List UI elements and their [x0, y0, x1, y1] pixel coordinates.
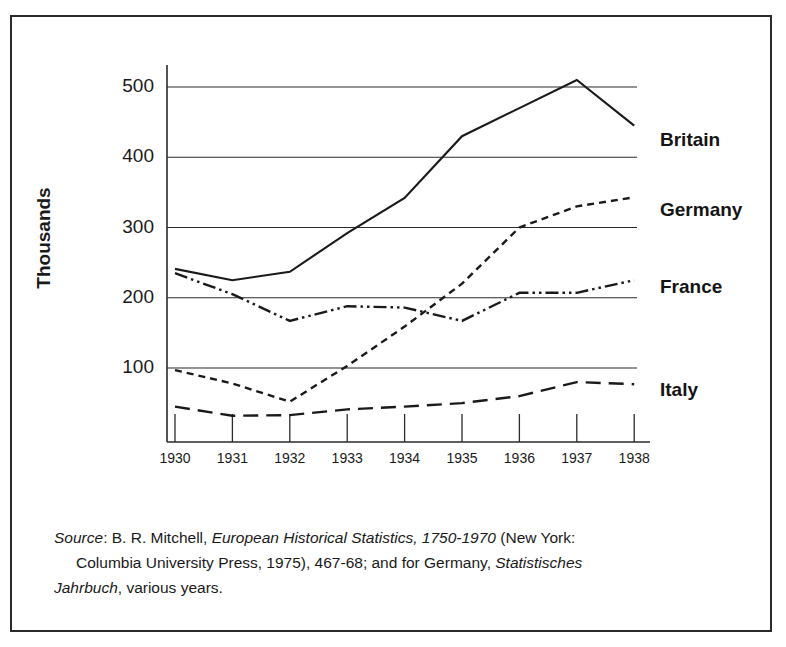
series-label-britain: Britain — [660, 129, 720, 151]
source-line2-text: Columbia University Press, 1975), 467-68… — [76, 554, 495, 571]
source-label: Source — [54, 529, 103, 546]
source-line1-tail: (New York: — [496, 529, 575, 546]
source-line3-rest: , various years. — [118, 579, 223, 596]
series-label-italy: Italy — [660, 379, 698, 401]
source-note: Source: B. R. Mitchell, European Histori… — [54, 525, 744, 600]
series-line-britain — [175, 80, 634, 280]
data-series-paths — [175, 80, 634, 416]
series-label-germany: Germany — [660, 199, 742, 221]
series-label-france: France — [660, 276, 722, 298]
series-line-italy — [175, 382, 634, 416]
source-line-1: Source: B. R. Mitchell, European Histori… — [54, 525, 744, 550]
source-work-title: European Historical Statistics, 1750-197… — [212, 529, 496, 546]
line-chart-svg — [12, 17, 772, 487]
source-line-3: Jahrbuch, various years. — [54, 575, 744, 600]
source-work-title-2: Statistisches — [495, 554, 582, 571]
source-line1-rest: : B. R. Mitchell, — [103, 529, 212, 546]
chart-plot-area: Thousands 100200300400500 19301931193219… — [12, 17, 772, 487]
source-work-title-3: Jahrbuch — [54, 579, 118, 596]
series-line-france — [175, 273, 634, 321]
source-line-2: Columbia University Press, 1975), 467-68… — [54, 550, 744, 575]
figure-panel: Thousands 100200300400500 19301931193219… — [10, 15, 772, 632]
gridlines — [167, 87, 637, 368]
x-axis-ticks — [175, 414, 634, 442]
